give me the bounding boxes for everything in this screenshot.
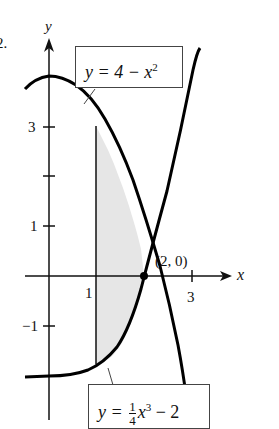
frac-den: 4: [129, 413, 136, 427]
y-axis-label: y: [43, 18, 52, 34]
label-bottom-var: x: [138, 402, 146, 422]
intersection-label: (2, 0): [155, 253, 188, 270]
tick-label-y-1: 1: [30, 218, 38, 234]
label-bottom-fraction: 1 4: [129, 400, 136, 427]
tick-label-x-1: 1: [85, 285, 93, 301]
label-top-curve: y = 4 − x2: [75, 46, 183, 88]
tick-label-y-3: 3: [28, 119, 36, 135]
label-bottom-lhs: y =: [98, 402, 123, 422]
intersection-point: [140, 272, 148, 280]
leader-bottom: [108, 368, 113, 385]
label-top-text: y = 4 − x: [85, 62, 152, 82]
label-bottom-curve: y = 1 4 x3 − 2: [88, 384, 210, 429]
tick-label-x-3: 3: [187, 289, 195, 305]
leader-bottom-2: [160, 340, 166, 385]
label-bottom-tail: − 2: [151, 402, 179, 422]
x-axis-label: x: [236, 266, 244, 283]
tick-label-y-neg1: −1: [22, 318, 38, 334]
label-top-exp: 2: [152, 61, 158, 73]
problem-number: 2.: [0, 35, 7, 51]
frac-num: 1: [129, 400, 136, 413]
shaded-region: [96, 126, 144, 364]
